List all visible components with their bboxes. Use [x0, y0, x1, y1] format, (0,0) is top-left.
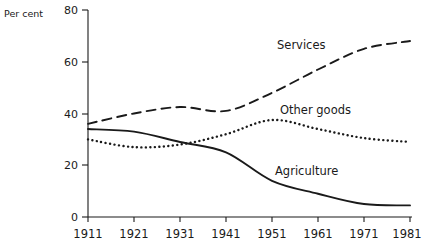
x-tick-label-1941: 1941 — [211, 227, 240, 241]
x-tick-label-1911: 1911 — [73, 227, 102, 241]
x-tick-label-1981: 1981 — [392, 227, 421, 241]
x-tick-label-1971: 1971 — [349, 227, 378, 241]
x-tick-label-1921: 1921 — [119, 227, 148, 241]
x-tick-label-1961: 1961 — [303, 227, 332, 241]
series-line-agriculture — [88, 129, 410, 205]
series-line-other-goods — [88, 120, 410, 148]
series-label-other-goods: Other goods — [280, 103, 351, 117]
series-label-services: Services — [277, 38, 326, 52]
y-axis-label: Per cent — [4, 8, 43, 19]
y-tick-label-80: 80 — [64, 4, 78, 17]
y-tick-label-40: 40 — [64, 108, 78, 121]
y-tick-label-0: 0 — [71, 211, 78, 224]
line-chart-figure: Per cent 80 60 40 20 0 1911 1921 1931 19… — [0, 0, 423, 250]
y-tick-label-60: 60 — [64, 56, 78, 69]
x-tick-label-1931: 1931 — [165, 227, 194, 241]
series-label-agriculture: Agriculture — [275, 164, 338, 178]
series-line-services — [88, 41, 410, 124]
x-tick-label-1951: 1951 — [257, 227, 286, 241]
y-tick-label-20: 20 — [64, 159, 78, 172]
chart-canvas: Per cent 80 60 40 20 0 1911 1921 1931 19… — [0, 0, 423, 250]
